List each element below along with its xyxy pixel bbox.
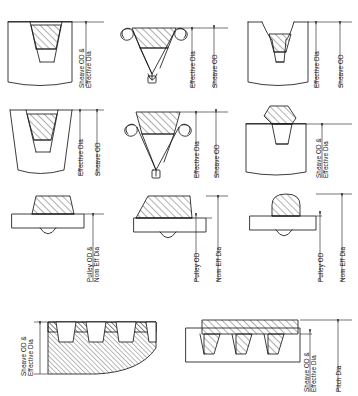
label-line-1: Effective Dia — [313, 51, 320, 88]
label-r2c2-effective-dia: Effective Dia — [193, 141, 200, 178]
label-line-1: Pulley OD — [193, 253, 200, 282]
label-r2c3-sheave-od-and-effective-dia: Sheave OD & Effective Dia — [315, 138, 329, 178]
label-line-2: Effective Dia — [27, 336, 34, 376]
panel-r4c1 — [34, 322, 156, 374]
label-r4c2-sheave-od-and-effective-dia: Sheave OD & Effective Dia — [303, 352, 317, 392]
panel-r3c2 — [134, 196, 228, 282]
label-line-1: Pulley OD — [317, 253, 324, 282]
label-r1c3-sheave-od: Sheave OD — [337, 54, 344, 88]
label-r2c1-effective-dia: Effective Dia — [77, 139, 84, 176]
label-line-2: Effective Dia — [322, 138, 329, 178]
label-line-1: Sheave OD — [211, 54, 218, 88]
label-line-2: Effective Dia — [85, 48, 92, 88]
label-line-1: Sheave OD & — [315, 138, 322, 178]
label-line-1: Sheave OD & — [303, 352, 310, 392]
label-line-1: Pulley OD & — [86, 246, 93, 282]
diagram-canvas — [0, 0, 358, 396]
label-line-1: Sheave OD — [337, 54, 344, 88]
label-r3c3-nom-eff-dia: Nom Eff Dia — [339, 247, 346, 282]
label-r1c1-sheave-od-and-effective-dia: Sheave OD & Effective Dia — [78, 48, 92, 88]
panel-r2c3 — [246, 106, 352, 178]
label-r3c1-pulley-od-and-nom-eff-dia: Pulley OD & Nom Eff Dia — [86, 246, 100, 282]
label-r4c2-pitch-dia: Pitch Dia — [335, 366, 342, 392]
label-line-1: Sheave OD & — [20, 336, 27, 376]
label-r3c2-nom-eff-dia: Nom Eff Dia — [215, 247, 222, 282]
label-r1c2-sheave-od: Sheave OD — [211, 54, 218, 88]
label-line-1: Pitch Dia — [335, 366, 342, 392]
panel-r3c3 — [250, 194, 352, 282]
label-r3c2-pulley-od: Pulley OD — [193, 253, 200, 282]
label-line-1: Effective Dia — [77, 139, 84, 176]
label-line-1: Nom Eff Dia — [339, 247, 346, 282]
panel-r2c1 — [10, 110, 104, 176]
label-r2c2-sheave-od: Sheave OD — [213, 144, 220, 178]
label-line-2: Nom Eff Dia — [93, 246, 100, 282]
panel-r4c2 — [186, 320, 352, 392]
label-line-1: Sheave OD — [94, 142, 101, 176]
label-line-1: Effective Dia — [189, 51, 196, 88]
label-line-1: Sheave OD — [213, 144, 220, 178]
label-r2c1-sheave-od: Sheave OD — [94, 142, 101, 176]
diagram-sheet: Sheave OD & Effective Dia Effective Dia … — [0, 0, 358, 396]
label-line-1: Sheave OD & — [78, 48, 85, 88]
label-r1c2-effective-dia: Effective Dia — [189, 51, 196, 88]
label-r3c3-pulley-od: Pulley OD — [317, 253, 324, 282]
label-line-1: Nom Eff Dia — [215, 247, 222, 282]
label-r1c3-effective-dia: Effective Dia — [313, 51, 320, 88]
label-line-2: Effective Dia — [310, 352, 317, 392]
label-r4c1-sheave-od-and-effective-dia: Sheave OD & Effective Dia — [20, 336, 34, 376]
label-line-1: Effective Dia — [193, 141, 200, 178]
